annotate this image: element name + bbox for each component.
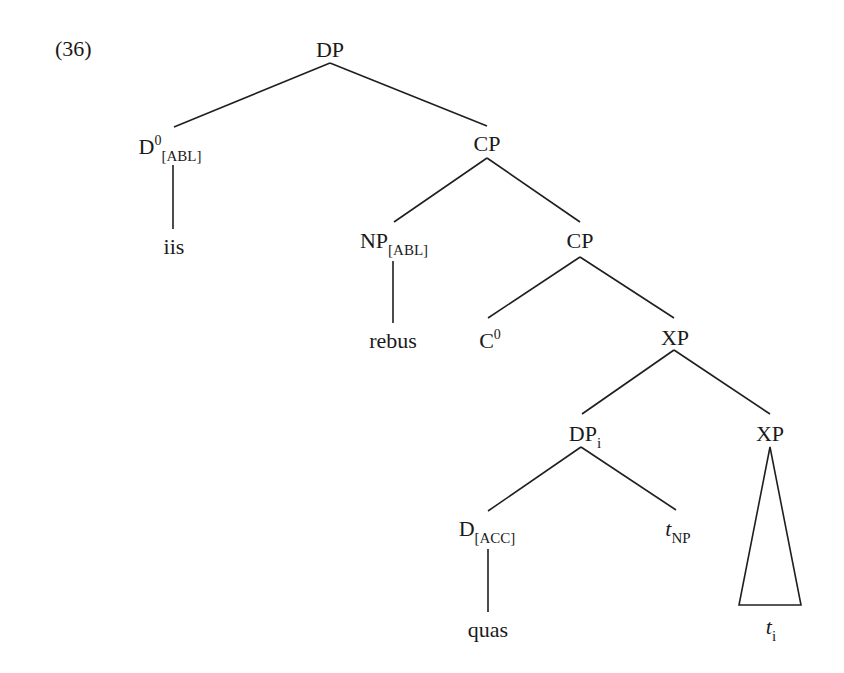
edge-dp-d0 [174,63,330,127]
node-superscript: 0 [494,327,501,342]
node-label: DP [316,37,344,62]
node-iis: iis [164,236,185,258]
edge-xp-dpi [582,350,674,414]
edge-dpi-tnp [581,447,676,510]
node-label: CP [567,228,594,253]
node-label: DP [569,421,597,446]
node-subscript: [ABL] [161,148,201,164]
node-c0: C0 [479,330,501,352]
node-label: CP [474,131,501,156]
example-number: (36) [55,38,92,60]
edge-xp-xp [674,350,770,414]
node-cp-2: CP [567,230,594,252]
node-dp-i: DPi [569,423,601,445]
node-label: NP [360,228,388,253]
node-rebus: rebus [369,330,417,352]
node-np-abl: NP[ABL] [360,230,428,252]
node-dp-root: DP [316,39,344,61]
edge-cp-xp [580,257,674,318]
node-label: iis [164,234,185,259]
node-label: XP [756,421,784,446]
node-label: rebus [369,328,417,353]
node-superscript: 0 [154,133,161,148]
node-xp-2: XP [756,423,784,445]
node-cp-1: CP [474,133,501,155]
edge-cp-c0 [488,257,580,318]
node-d0-abl: D0[ABL] [139,136,202,158]
edge-cp-cp [487,158,580,222]
edge-cp-np [394,158,487,222]
node-label: D [139,134,155,159]
triangle-xp-ti [739,447,801,605]
node-label: quas [468,617,508,642]
node-subscript: i [597,435,601,451]
node-d-acc: D[ACC] [459,518,516,540]
node-t-np: tNP [665,518,690,540]
node-subscript: [ABL] [388,242,428,258]
node-subscript: NP [671,530,690,546]
tree-edges [0,0,844,673]
node-quas: quas [468,619,508,641]
edge-dp-cp [330,63,487,126]
node-subscript: [ACC] [475,530,516,546]
node-subscript: i [772,628,776,644]
node-label: C [479,328,494,353]
node-label: D [459,516,475,541]
node-xp-1: XP [661,327,689,349]
node-label: XP [661,325,689,350]
node-t-i: ti [766,616,776,638]
edge-dpi-dacc [488,447,581,511]
